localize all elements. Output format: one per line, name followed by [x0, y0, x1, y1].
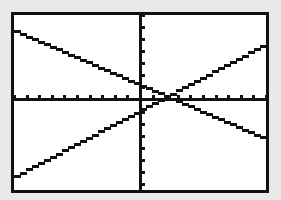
graph-window: [11, 12, 269, 193]
line-segment: [230, 123, 237, 126]
axes: [14, 15, 266, 190]
calculator-screen: Graphing calculator screen showing two i…: [0, 0, 281, 200]
line-segment: [92, 64, 99, 67]
line-segment: [62, 149, 69, 152]
x-tick: [126, 95, 129, 98]
x-tick: [26, 95, 29, 98]
x-tick: [101, 95, 104, 98]
x-tick: [152, 95, 155, 98]
line-segment: [194, 80, 201, 83]
line-segment: [44, 43, 51, 46]
line-segment: [98, 130, 105, 133]
line-segment: [152, 90, 159, 93]
x-tick: [265, 95, 266, 98]
y-tick: [142, 111, 145, 114]
line-segment: [254, 134, 261, 137]
line-segment: [248, 51, 255, 54]
line-segment: [38, 41, 45, 44]
line-segment: [188, 105, 195, 108]
x-tick: [38, 95, 41, 98]
line-segment: [86, 61, 93, 64]
x-tick: [89, 95, 92, 98]
plot-area: [14, 15, 266, 190]
line-segment: [56, 153, 63, 156]
line-segment: [134, 82, 141, 85]
y-tick: [142, 147, 145, 150]
y-tick: [142, 50, 145, 53]
x-tick: [227, 95, 230, 98]
x-tick: [114, 95, 117, 98]
line-segment: [38, 162, 45, 165]
line-segment: [86, 137, 93, 140]
y-tick: [142, 26, 145, 29]
line-segment: [122, 77, 129, 80]
x-tick: [51, 95, 54, 98]
line-segment: [170, 98, 177, 101]
line-segment: [134, 112, 141, 115]
x-tick: [240, 95, 243, 98]
line-segment: [32, 38, 39, 41]
line-segment: [140, 85, 147, 88]
line-segment: [14, 175, 21, 178]
line-segment: [200, 111, 207, 114]
y-tick: [142, 38, 145, 41]
line-segment: [260, 45, 266, 48]
line-segment: [158, 92, 165, 95]
line-segment: [146, 87, 153, 90]
line-segment: [206, 113, 213, 116]
line-segment: [74, 56, 81, 59]
x-tick: [202, 95, 205, 98]
line-segment: [236, 126, 243, 129]
x-tick: [177, 95, 180, 98]
x-tick: [215, 95, 218, 98]
line-segment: [224, 64, 231, 67]
line-segment: [260, 136, 266, 139]
x-tick: [76, 95, 79, 98]
line-segment: [170, 93, 177, 96]
line-segment: [26, 36, 33, 39]
line-segment: [212, 116, 219, 119]
line-segment: [20, 172, 27, 175]
screen-description: Graphing calculator screen showing two i…: [0, 0, 1, 1]
line-segment: [68, 54, 75, 57]
y-tick: [142, 62, 145, 65]
line-segment: [182, 103, 189, 106]
line-segment: [254, 48, 261, 51]
line-segment: [20, 33, 27, 36]
y-tick: [142, 123, 145, 126]
line-segment: [176, 89, 183, 92]
line-segment: [80, 140, 87, 143]
line-segment: [74, 143, 81, 146]
line-segment: [122, 118, 129, 121]
line-segment: [224, 121, 231, 124]
line-segment: [50, 156, 57, 159]
line-segment: [110, 124, 117, 127]
line-segment: [128, 115, 135, 118]
x-tick: [189, 95, 192, 98]
y-axis: [139, 15, 142, 190]
x-tick: [14, 95, 16, 98]
line-segment: [56, 48, 63, 51]
line-segment: [140, 108, 147, 111]
line-segment: [200, 77, 207, 80]
x-tick: [252, 95, 255, 98]
line-segment: [50, 46, 57, 49]
line-segment: [242, 129, 249, 132]
line-segment: [230, 61, 237, 64]
line-segment: [212, 70, 219, 73]
line-segment: [218, 118, 225, 121]
line-segment: [110, 72, 117, 75]
line-segment: [98, 67, 105, 70]
line-segment: [248, 131, 255, 134]
y-tick: [142, 135, 145, 138]
y-tick: [142, 74, 145, 77]
line-segment: [116, 74, 123, 77]
line-segment: [176, 100, 183, 103]
line-segment: [26, 168, 33, 171]
line-segment: [44, 159, 51, 162]
line-segment: [80, 59, 87, 62]
line-segment: [158, 99, 165, 102]
y-tick: [142, 159, 145, 162]
line-segment: [242, 55, 249, 58]
line-segment: [32, 165, 39, 168]
